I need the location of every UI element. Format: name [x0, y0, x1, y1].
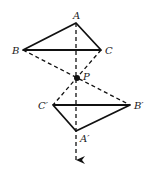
triangle-AprimeBprimeCprime: [53, 105, 130, 131]
label-P: P: [82, 71, 90, 82]
label-A-prime: A′: [79, 133, 90, 144]
diagram-canvas: A B C P C′ B′ A′: [0, 0, 153, 172]
center-point-P: [74, 75, 80, 81]
label-B: B: [11, 45, 19, 56]
triangle-ABC: [23, 23, 101, 50]
label-C-prime: C′: [38, 100, 49, 111]
label-C: C: [105, 45, 113, 56]
reflection-diagram: A B C P C′ B′ A′: [0, 0, 153, 172]
label-A: A: [72, 10, 80, 21]
label-B-prime: B′: [133, 100, 144, 111]
